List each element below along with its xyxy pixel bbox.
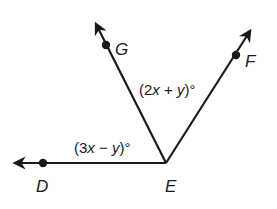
point-f (232, 51, 240, 59)
point-d (39, 159, 47, 167)
angle-diagram: G F D E (2x + y)° (3x − y)° (0, 0, 277, 209)
angle-deg-expression: (3x − y)° (74, 139, 130, 156)
point-g (102, 41, 110, 49)
label-e: E (165, 177, 177, 196)
label-g: G (115, 40, 128, 59)
label-f: F (245, 52, 257, 71)
label-d: D (36, 177, 48, 196)
angle-gef-expression: (2x + y)° (139, 81, 195, 98)
